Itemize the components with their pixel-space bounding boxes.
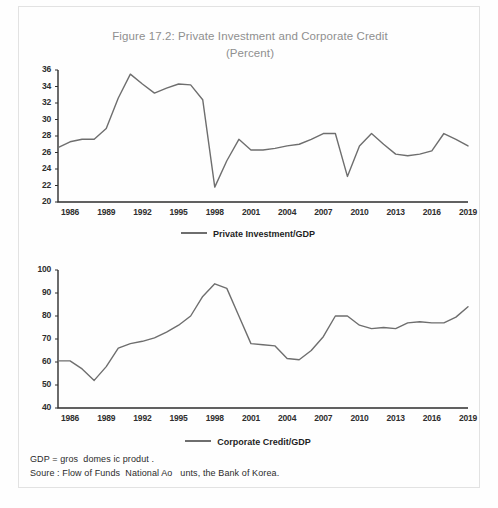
data-series-line: [58, 284, 468, 381]
figure-notes: GDP = gros domes ic produt . Soure : Flo…: [30, 452, 460, 480]
y-axis-tick-label: 24: [25, 163, 51, 173]
x-axis-tick-label: 2007: [306, 413, 340, 423]
y-axis-tick-label: 20: [25, 196, 51, 206]
y-axis-tick-label: 36: [25, 64, 51, 74]
y-axis-tick-label: 40: [25, 402, 51, 412]
note-source: Soure : Flow of Funds National Ao unts, …: [30, 466, 460, 480]
x-axis-tick-label: 2010: [342, 207, 376, 217]
legend-line-swatch-private-investment: [181, 232, 207, 234]
chart-panel-private-investment: 2022242628303234361986198919921995199820…: [22, 62, 474, 252]
legend-line-swatch-corporate-credit: [185, 440, 211, 442]
y-axis-tick-label: 32: [25, 97, 51, 107]
y-axis-tick-label: 90: [25, 287, 51, 297]
plot-area-corporate-credit: 4050607080901001986198919921995199820012…: [22, 262, 474, 414]
x-axis-tick-label: 2016: [415, 207, 449, 217]
x-axis-tick-label: 2004: [270, 207, 304, 217]
line-chart-private-investment: [22, 62, 474, 214]
x-axis-tick-label: 1986: [53, 413, 87, 423]
x-axis-tick-label: 1986: [53, 207, 87, 217]
x-axis-tick-label: 2016: [415, 413, 449, 423]
note-gdp-definition: GDP = gros domes ic produt .: [30, 452, 460, 466]
x-axis-tick-label: 2001: [234, 413, 268, 423]
x-axis-tick-label: 2019: [451, 413, 485, 423]
x-axis-tick-label: 1995: [162, 413, 196, 423]
figure-title: Figure 17.2: Private Investment and Corp…: [40, 28, 460, 62]
x-axis-tick-label: 1989: [89, 207, 123, 217]
y-axis-tick-label: 28: [25, 130, 51, 140]
legend-private-investment: Private Investment/GDP: [22, 228, 474, 239]
line-chart-corporate-credit: [22, 262, 474, 414]
x-axis-tick-label: 1998: [198, 207, 232, 217]
plot-area-private-investment: 2022242628303234361986198919921995199820…: [22, 62, 474, 214]
x-axis-tick-label: 1989: [89, 413, 123, 423]
figure-title-line1: Figure 17.2: Private Investment and Corp…: [112, 30, 388, 42]
y-axis-tick-label: 50: [25, 379, 51, 389]
x-axis-tick-label: 1998: [198, 413, 232, 423]
x-axis-tick-label: 2013: [379, 207, 413, 217]
y-axis-tick-label: 26: [25, 147, 51, 157]
y-axis-tick-label: 100: [25, 264, 51, 274]
data-series-line: [58, 74, 468, 187]
legend-corporate-credit: Corporate Credit/GDP: [22, 436, 474, 447]
figure-page: Figure 17.2: Private Investment and Corp…: [0, 0, 498, 508]
y-axis-tick-label: 60: [25, 356, 51, 366]
chart-axes: [58, 270, 468, 408]
x-axis-tick-label: 2019: [451, 207, 485, 217]
y-axis-tick-label: 30: [25, 114, 51, 124]
y-axis-tick-label: 34: [25, 81, 51, 91]
y-axis-tick-label: 70: [25, 333, 51, 343]
legend-label-private-investment: Private Investment/GDP: [213, 229, 315, 239]
x-axis-tick-label: 2013: [379, 413, 413, 423]
chart-axes: [58, 70, 468, 202]
chart-panel-corporate-credit: 4050607080901001986198919921995199820012…: [22, 262, 474, 462]
x-axis-tick-label: 1995: [162, 207, 196, 217]
y-axis-tick-label: 22: [25, 180, 51, 190]
y-axis-tick-label: 80: [25, 310, 51, 320]
figure-title-line2: (Percent): [40, 45, 460, 62]
legend-label-corporate-credit: Corporate Credit/GDP: [217, 437, 311, 447]
x-axis-tick-label: 2010: [342, 413, 376, 423]
x-axis-tick-label: 2007: [306, 207, 340, 217]
x-axis-tick-label: 2004: [270, 413, 304, 423]
x-axis-tick-label: 1992: [125, 413, 159, 423]
x-axis-tick-label: 1992: [125, 207, 159, 217]
x-axis-tick-label: 2001: [234, 207, 268, 217]
